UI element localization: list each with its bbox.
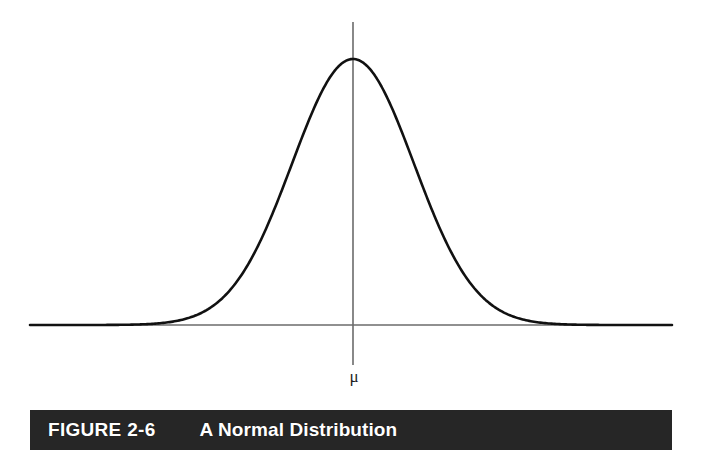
figure-caption-bar: FIGURE 2-6 A Normal Distribution xyxy=(30,410,672,450)
figure-title-label: A Normal Distribution xyxy=(200,419,398,441)
mu-symbol: μ xyxy=(349,367,358,386)
normal-curve-path xyxy=(30,59,672,325)
figure-container: μ FIGURE 2-6 A Normal Distribution xyxy=(0,0,706,465)
normal-distribution-plot xyxy=(0,0,706,400)
mean-axis-label: μ xyxy=(0,367,706,387)
figure-number-label: FIGURE 2-6 xyxy=(48,419,156,441)
plot-svg xyxy=(0,0,706,400)
